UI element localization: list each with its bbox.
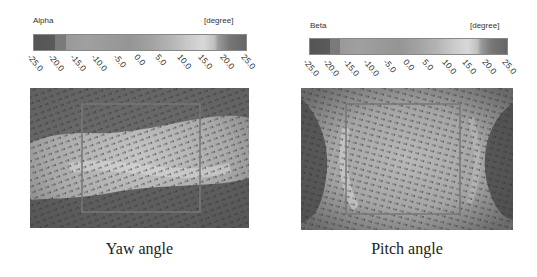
tick-label: -15.0 bbox=[341, 57, 361, 78]
colorbar-ticks: -25.0 -20.0 -15.0 -10.0 -5.0 0.0 5.0 10.… bbox=[309, 57, 508, 87]
colorbar bbox=[309, 38, 508, 55]
colorbar-title: Beta bbox=[310, 21, 326, 30]
pitch-panel: Beta [degree] -25.0 -20.0 -15.0 -10.0 -5… bbox=[270, 0, 537, 277]
tick-label: -25.0 bbox=[301, 57, 321, 78]
tick-label: 15.0 bbox=[460, 57, 478, 76]
tick-label: -20.0 bbox=[46, 52, 66, 73]
tick-label: 10.0 bbox=[440, 57, 458, 76]
tick-label: 0.0 bbox=[401, 57, 416, 72]
tick-label: 15.0 bbox=[196, 52, 214, 71]
colorbar bbox=[33, 34, 247, 51]
tick-label: 0.0 bbox=[132, 52, 147, 67]
colorbar-unit: [degree] bbox=[204, 16, 233, 25]
tick-label: 25.0 bbox=[500, 57, 518, 76]
tick-label: 20.0 bbox=[218, 52, 236, 71]
tick-label: 5.0 bbox=[420, 57, 435, 72]
yaw-vector-field bbox=[30, 88, 249, 228]
tick-label: 5.0 bbox=[153, 52, 168, 67]
tick-label: -25.0 bbox=[25, 52, 45, 73]
tick-label: -20.0 bbox=[321, 57, 341, 78]
tick-label: -15.0 bbox=[68, 52, 88, 73]
figure-caption: Pitch angle bbox=[301, 240, 513, 258]
figure-caption: Yaw angle bbox=[30, 240, 249, 258]
tick-label: -5.0 bbox=[381, 57, 398, 75]
colorbar-title: Alpha bbox=[33, 16, 53, 25]
tick-label: 25.0 bbox=[239, 52, 257, 71]
tick-label: -10.0 bbox=[361, 57, 381, 78]
tick-label: -5.0 bbox=[111, 52, 128, 70]
tick-label: 20.0 bbox=[480, 57, 498, 76]
pitch-vector-field bbox=[301, 88, 513, 230]
tick-label: -10.0 bbox=[89, 52, 109, 73]
yaw-panel: Alpha [degree] -25.0 -20.0 -15.0 -10.0 -… bbox=[0, 0, 268, 277]
colorbar-ticks: -25.0 -20.0 -15.0 -10.0 -5.0 0.0 5.0 10.… bbox=[33, 52, 247, 82]
tick-label: 10.0 bbox=[175, 52, 193, 71]
colorbar-unit: [degree] bbox=[470, 21, 499, 30]
